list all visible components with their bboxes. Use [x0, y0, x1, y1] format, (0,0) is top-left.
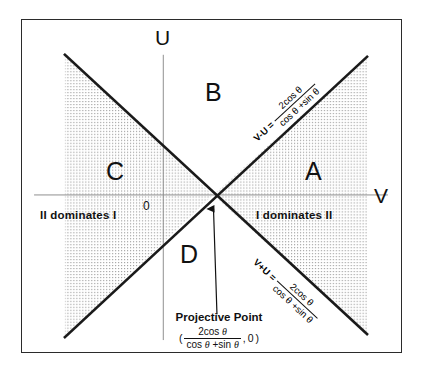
diagram-plot — [22, 20, 401, 352]
denominator-cos: cos — [186, 339, 202, 350]
dominance-label-right: I dominates II — [256, 210, 332, 222]
formula-numerator: 2cos θ — [184, 326, 240, 338]
annotation-leader-arrow — [213, 209, 216, 314]
region-label-c: C — [106, 159, 124, 184]
formula-fraction: 2cos θ cos θ +sin θ — [184, 326, 240, 350]
origin-label: 0 — [143, 200, 150, 212]
formula-comma: , — [243, 333, 246, 344]
figure-frame: U V 0 B C A D II dominates I I dominates… — [21, 19, 402, 353]
formula-second-coordinate: 0 — [248, 333, 254, 344]
denominator-theta-1: θ — [205, 339, 210, 350]
region-label-d: D — [180, 242, 198, 267]
region-label-a: A — [305, 159, 322, 184]
region-c-shading — [65, 55, 213, 337]
denominator-theta-2: θ — [234, 339, 239, 350]
formula-denominator: cos θ +sin θ — [184, 338, 240, 351]
projective-point-formula: ( 2cos θ cos θ +sin θ , 0 ) — [144, 326, 294, 350]
numerator-theta: θ — [222, 326, 227, 337]
numerator-text: 2cos — [198, 326, 219, 337]
formula-close-paren: ) — [256, 333, 260, 344]
axis-label-u: U — [155, 27, 170, 48]
region-label-b: B — [205, 80, 222, 105]
projective-point-title: Projective Point — [144, 312, 294, 324]
axis-label-v: V — [374, 185, 388, 206]
denominator-plus-sin: +sin — [212, 339, 231, 350]
figure-canvas: U V 0 B C A D II dominates I I dominates… — [0, 0, 426, 372]
formula-open-paren: ( — [179, 333, 183, 344]
dominance-label-left: II dominates I — [40, 210, 116, 222]
